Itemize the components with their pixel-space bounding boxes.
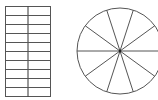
circle-spoke — [120, 10, 133, 51]
circle-spoke — [107, 10, 120, 51]
circle-spoke — [85, 26, 120, 51]
rectangle-grid — [6, 7, 51, 97]
circle-spoke — [107, 51, 120, 92]
divided-circle — [77, 8, 158, 94]
circle-spoke — [120, 26, 155, 51]
fraction-diagram — [0, 0, 158, 100]
circle-spoke — [85, 51, 120, 76]
circle-spoke — [120, 51, 133, 92]
circle-spoke — [120, 51, 155, 76]
center-dot — [119, 50, 122, 53]
